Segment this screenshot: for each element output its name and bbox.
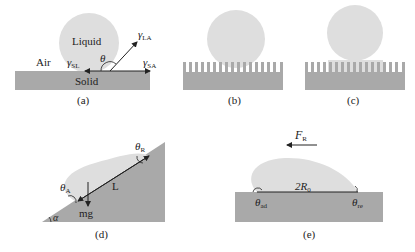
panel-c: (c)	[305, 5, 405, 107]
surface-pillars	[305, 62, 405, 72]
gamma-sa-symbol: γSA	[143, 56, 156, 70]
gamma-la-symbol: γLA	[138, 28, 152, 42]
weight-label: mg	[79, 207, 94, 219]
surface-pillars	[183, 62, 283, 72]
solid-label: Solid	[75, 75, 99, 87]
air-label: Air	[36, 56, 51, 68]
liquid-label: Liquid	[72, 35, 102, 47]
wetting-diagram: Air Liquid Solid γSL γLA γSA θ (a) (b)	[0, 0, 415, 252]
panel-d: θA θR L mg α (d)	[42, 140, 165, 241]
caption-a: (a)	[77, 94, 90, 107]
caption-e: (e)	[303, 228, 316, 241]
length-label: L	[112, 180, 119, 192]
force-symbol: FR	[294, 128, 307, 143]
panel-b: (b)	[183, 10, 283, 107]
caption-b: (b)	[228, 94, 241, 107]
theta-symbol: θ	[100, 52, 106, 64]
solid-substrate	[183, 72, 283, 90]
liquid-droplet	[327, 5, 383, 61]
alpha-symbol: α	[53, 212, 59, 223]
solid-substrate	[305, 72, 405, 90]
liquid-droplet	[207, 10, 265, 68]
panel-a: Air Liquid Solid γSL γLA γSA θ (a)	[15, 13, 156, 107]
caption-d: (d)	[95, 228, 108, 241]
caption-c: (c)	[347, 94, 360, 107]
theta-r-symbol: θR	[135, 140, 145, 154]
panel-e: FR 2R0 θad θre (e)	[235, 128, 383, 241]
